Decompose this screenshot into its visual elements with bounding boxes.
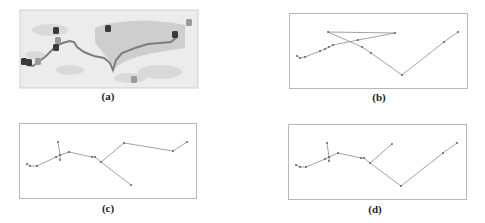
map-marker-icon bbox=[105, 25, 111, 32]
graph-node bbox=[324, 48, 326, 50]
map-marker-icon bbox=[53, 27, 59, 34]
map-marker-icon bbox=[55, 37, 61, 44]
graph-node bbox=[442, 152, 444, 154]
graph-node bbox=[130, 184, 132, 186]
graph-node bbox=[319, 50, 321, 52]
graph-node bbox=[295, 164, 297, 166]
graph-node bbox=[59, 154, 61, 156]
caption-b: (b) bbox=[372, 91, 385, 103]
graph-node bbox=[337, 152, 339, 154]
panel-d bbox=[289, 125, 467, 200]
caption-c: (c) bbox=[102, 202, 114, 214]
graph-node bbox=[361, 46, 363, 48]
graph-node bbox=[305, 166, 307, 168]
graph-node bbox=[26, 163, 28, 165]
graph-node bbox=[391, 143, 393, 145]
map-marker-icon bbox=[172, 31, 178, 38]
graph-node bbox=[328, 156, 330, 158]
map-terrain bbox=[56, 65, 84, 75]
graph-node bbox=[456, 142, 458, 144]
graph-node bbox=[357, 39, 359, 41]
map-terrain bbox=[114, 73, 146, 83]
graph-node bbox=[328, 160, 330, 162]
panel-c bbox=[20, 124, 197, 199]
graph-node bbox=[68, 151, 70, 153]
graph-node bbox=[326, 142, 328, 144]
figure-canvas bbox=[0, 0, 485, 223]
graph-node bbox=[304, 56, 306, 58]
panel-b bbox=[290, 14, 468, 89]
graph-node bbox=[299, 166, 301, 168]
graph-node bbox=[401, 74, 403, 76]
graph-node bbox=[400, 185, 402, 187]
graph-node bbox=[186, 141, 188, 143]
graph-node bbox=[360, 157, 362, 159]
panel-frame bbox=[289, 125, 467, 200]
graph-node bbox=[172, 150, 174, 152]
graph-node bbox=[457, 31, 459, 33]
map-marker-icon bbox=[53, 44, 59, 51]
map-terrain bbox=[32, 24, 68, 36]
graph-node bbox=[370, 52, 372, 54]
graph-node bbox=[57, 141, 59, 143]
graph-node bbox=[91, 156, 93, 158]
graph-node bbox=[327, 31, 329, 33]
graph-node bbox=[363, 157, 365, 159]
map-terrain bbox=[25, 51, 45, 59]
map-marker-icon bbox=[131, 76, 137, 83]
graph-node bbox=[296, 55, 298, 57]
map-marker-icon bbox=[26, 59, 32, 66]
graph-node bbox=[100, 161, 102, 163]
caption-d: (d) bbox=[368, 203, 381, 215]
graph-node bbox=[332, 44, 334, 46]
graph-node bbox=[36, 165, 38, 167]
map-marker-icon bbox=[35, 58, 41, 65]
graph-node bbox=[443, 41, 445, 43]
graph-node bbox=[299, 57, 301, 59]
graph-node bbox=[324, 158, 326, 160]
graph-node bbox=[328, 46, 330, 48]
panel-frame bbox=[290, 14, 468, 89]
graph-node bbox=[369, 162, 371, 164]
graph-node bbox=[59, 159, 61, 161]
panel-frame bbox=[20, 124, 197, 199]
graph-node bbox=[94, 156, 96, 158]
caption-a: (a) bbox=[102, 90, 115, 102]
graph-node bbox=[123, 142, 125, 144]
graph-node bbox=[29, 165, 31, 167]
graph-node bbox=[55, 156, 57, 158]
map-marker-icon bbox=[186, 19, 192, 26]
graph-node bbox=[394, 32, 396, 34]
panel-a bbox=[20, 10, 198, 88]
